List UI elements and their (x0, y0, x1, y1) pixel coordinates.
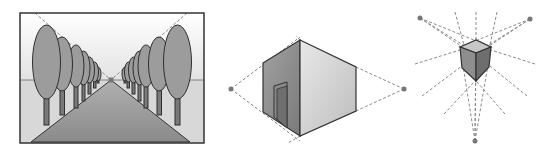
one-point-perspective-panel (20, 13, 204, 143)
three-point-perspective-panel (415, 12, 535, 144)
vanishing-point-bottom (473, 139, 478, 144)
vanishing-point-top-right (528, 17, 533, 22)
box-right-face (300, 40, 356, 136)
two-point-perspective-panel (229, 36, 407, 143)
perspective-diagram (0, 0, 553, 159)
vanishing-point-right (402, 87, 407, 92)
cube-right-face (476, 47, 491, 81)
cube-left-face (460, 47, 476, 81)
vanishing-point (109, 78, 114, 83)
vanishing-point-left (229, 87, 234, 92)
vanishing-point-top-left (418, 16, 423, 21)
